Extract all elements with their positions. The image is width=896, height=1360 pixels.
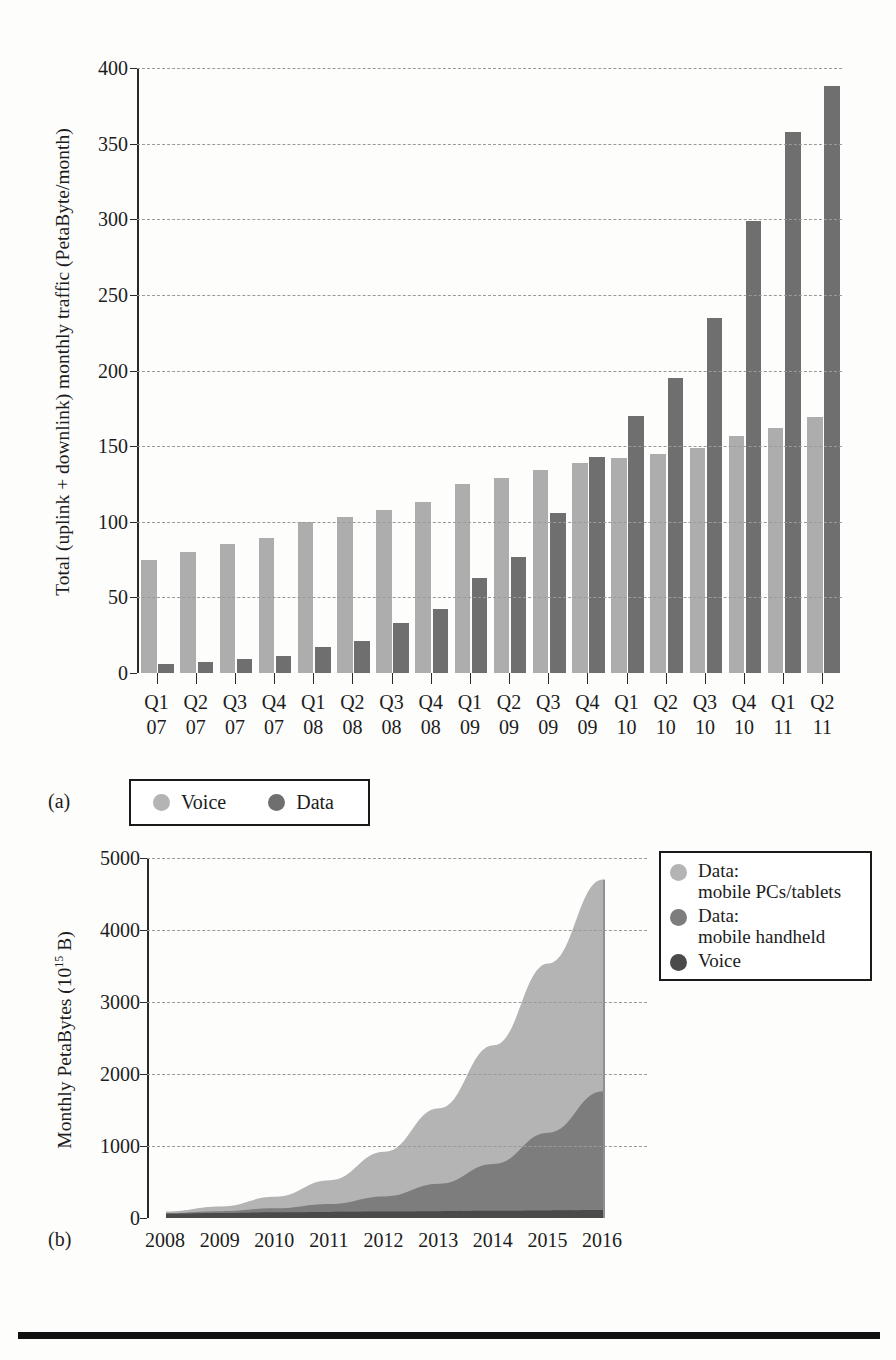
y-tick-mark — [140, 1074, 147, 1075]
bar-data — [354, 641, 370, 673]
gridline — [137, 219, 842, 220]
bar-voice — [611, 458, 627, 673]
x-tick-label: Q310 — [685, 690, 724, 740]
x-tick-label: Q107 — [137, 690, 176, 740]
bar-voice — [494, 478, 510, 673]
y-tick-label: 350 — [66, 134, 128, 154]
y-tick-label: 250 — [66, 285, 128, 305]
x-tick-mark — [509, 673, 510, 684]
x-axis-labels-b: 200820092010201120122013201420152016 — [147, 1228, 667, 1258]
legend-label-voice-b: Voice — [698, 950, 741, 971]
y-tick-label: 300 — [66, 209, 128, 229]
y-tick-label: 200 — [66, 361, 128, 381]
bar-voice — [180, 552, 196, 673]
y-tick-mark — [130, 446, 137, 447]
circle-swatch-icon — [670, 864, 687, 881]
gridline — [137, 295, 842, 296]
x-tick-mark — [627, 673, 628, 684]
x-tick-mark — [587, 673, 588, 684]
bar-data — [158, 664, 174, 673]
x-tick-label: 2013 — [412, 1228, 464, 1252]
bar-voice — [729, 436, 745, 673]
bar-voice — [337, 517, 353, 673]
x-tick-label: Q309 — [529, 690, 568, 740]
gridline — [147, 858, 647, 859]
x-tick-label: 2009 — [194, 1228, 246, 1252]
x-tick-label: Q307 — [215, 690, 254, 740]
figure-a-bar-chart: Total (uplink + downlink) monthly traffi… — [0, 0, 896, 840]
x-tick-mark — [392, 673, 393, 684]
x-tick-mark — [822, 673, 823, 684]
legend-a: Voice Data — [129, 779, 370, 826]
x-tick-label: Q110 — [607, 690, 646, 740]
gridline — [137, 446, 842, 447]
y-tick-label: 50 — [66, 587, 128, 607]
panel-label-a: (a) — [48, 790, 70, 813]
panel-label-b: (b) — [48, 1228, 71, 1251]
y-axis-ticks-a: 050100150200250300350400 — [62, 68, 128, 673]
y-tick-mark — [140, 930, 147, 931]
y-tick-label: 150 — [66, 436, 128, 456]
legend-item-voice-b: Voice — [670, 950, 870, 971]
x-tick-mark — [235, 673, 236, 684]
bar-voice — [455, 484, 471, 673]
y-tick-mark — [130, 219, 137, 220]
gridline — [147, 1002, 647, 1003]
x-tick-mark — [705, 673, 706, 684]
bar-data — [589, 457, 605, 673]
bar-voice — [376, 510, 392, 673]
y-tick-mark — [130, 597, 137, 598]
x-tick-label: Q111 — [764, 690, 803, 740]
bar-voice — [220, 544, 236, 673]
bar-data — [393, 623, 409, 673]
x-tick-label: Q211 — [803, 690, 842, 740]
bar-voice — [690, 448, 706, 673]
bottom-horizontal-rule — [18, 1332, 880, 1339]
y-tick-label: 2000 — [70, 1064, 140, 1084]
x-tick-label: Q409 — [568, 690, 607, 740]
y-tick-mark — [140, 1146, 147, 1147]
bar-data — [785, 132, 801, 673]
x-tick-label: Q308 — [372, 690, 411, 740]
x-tick-label: 2016 — [576, 1228, 628, 1252]
x-tick-mark — [666, 673, 667, 684]
figure-b-area-chart: Monthly PetaBytes (1015 B) 0100020003000… — [0, 840, 896, 1320]
legend-item-handheld: Data:mobile handheld — [670, 905, 870, 947]
gridline — [137, 68, 842, 69]
x-tick-label: Q109 — [450, 690, 489, 740]
gridline — [137, 371, 842, 372]
x-tick-mark — [744, 673, 745, 684]
bar-data — [668, 378, 684, 673]
bar-data — [433, 609, 449, 673]
x-tick-mark — [783, 673, 784, 684]
legend-item-voice: Voice — [153, 792, 226, 813]
bar-voice — [259, 538, 275, 673]
gridline — [137, 144, 842, 145]
plot-area-a — [137, 68, 842, 673]
y-axis-ticks-b: 010002000300040005000 — [66, 858, 140, 1218]
y-tick-label: 4000 — [70, 920, 140, 940]
x-tick-label: 2008 — [139, 1228, 191, 1252]
x-axis-labels-a: Q107Q207Q307Q407Q108Q208Q308Q408Q109Q209… — [137, 690, 842, 752]
x-tick-label: 2012 — [358, 1228, 410, 1252]
x-tick-mark — [431, 673, 432, 684]
y-tick-label: 5000 — [70, 848, 140, 868]
gridline — [147, 1074, 647, 1075]
y-tick-label: 1000 — [70, 1136, 140, 1156]
bar-voice — [807, 417, 823, 673]
bar-voice — [141, 560, 157, 673]
x-tick-mark — [157, 673, 158, 684]
y-tick-label: 0 — [66, 663, 128, 683]
y-tick-mark — [130, 522, 137, 523]
bar-data — [511, 557, 527, 673]
plot-area-b — [147, 858, 647, 1218]
y-tick-mark — [140, 1218, 147, 1219]
bar-voice — [768, 428, 784, 673]
x-tick-label: Q207 — [176, 690, 215, 740]
legend-label-pcs-tablets: Data:mobile PCs/tablets — [698, 860, 841, 902]
y-tick-label: 100 — [66, 512, 128, 532]
x-tick-label: Q408 — [411, 690, 450, 740]
legend-item-pcs-tablets: Data:mobile PCs/tablets — [670, 860, 870, 902]
x-tick-label: 2010 — [248, 1228, 300, 1252]
bar-voice — [572, 463, 588, 673]
